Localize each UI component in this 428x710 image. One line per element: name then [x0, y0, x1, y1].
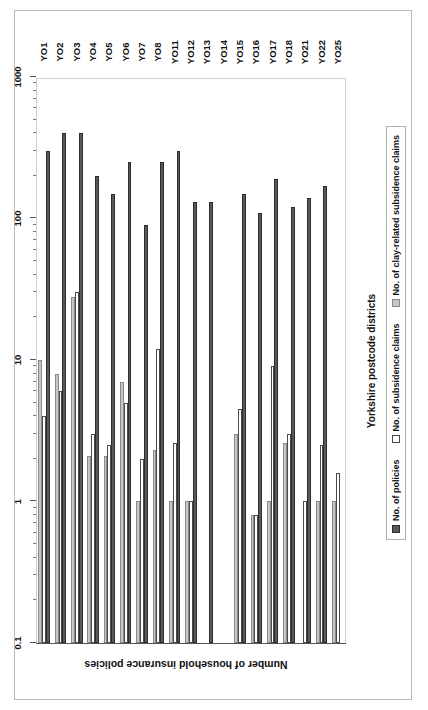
- bar-group: [232, 77, 248, 643]
- bar-policies-YO6[interactable]: [128, 162, 132, 643]
- category-label-YO14: YO14: [218, 35, 229, 69]
- value-axis-tick-label: 1: [14, 499, 23, 504]
- bar-group: [85, 77, 101, 643]
- bar-policies-YO18[interactable]: [291, 207, 295, 643]
- category-label-YO6: YO6: [120, 35, 131, 69]
- chart-rotation-wrapper: Number of household insurance policies Y…: [14, 10, 412, 700]
- bar-policies-YO2[interactable]: [62, 133, 66, 643]
- value-axis-tick-label: 100: [14, 211, 23, 227]
- bar-group: [264, 77, 280, 643]
- bar-policies-YO21[interactable]: [307, 198, 311, 643]
- category-label-YO11: YO11: [169, 35, 180, 69]
- value-axis-tick-label: 1000: [14, 66, 23, 87]
- bar-group: [330, 77, 346, 643]
- category-label-YO22: YO22: [316, 35, 327, 69]
- bar-group: [183, 77, 199, 643]
- category-label-YO25: YO25: [332, 35, 343, 69]
- category-label-YO17: YO17: [267, 35, 278, 69]
- category-label-YO21: YO21: [299, 35, 310, 69]
- category-label-YO16: YO16: [250, 35, 261, 69]
- category-label-YO2: YO2: [54, 35, 65, 69]
- bar-group: [297, 77, 313, 643]
- bar-subsidence-YO25[interactable]: [336, 473, 340, 643]
- rotated-chart-stage: Number of household insurance policies Y…: [14, 10, 412, 700]
- bar-group: [134, 77, 150, 643]
- bar-policies-YO17[interactable]: [274, 179, 278, 643]
- bar-policies-YO7[interactable]: [144, 225, 148, 643]
- legend-label-subsidence: No. of subsidence claims: [391, 323, 401, 431]
- category-axis-title: Yorkshire postcode districts: [366, 78, 377, 644]
- legend-label-clay: No. of clay-related subsidence claims: [391, 135, 401, 296]
- category-label-YO5: YO5: [103, 35, 114, 69]
- white-swatch-icon: [392, 435, 400, 443]
- bar-group: [36, 77, 52, 643]
- bar-policies-YO8[interactable]: [160, 162, 164, 643]
- plot-wrapper: Number of household insurance policies Y…: [14, 10, 412, 700]
- value-axis-tick-label: 0.1: [14, 636, 23, 649]
- bar-policies-YO11[interactable]: [177, 151, 181, 643]
- legend-item-clay[interactable]: No. of clay-related subsidence claims: [391, 135, 401, 308]
- value-axis-title: Number of household insurance policies: [31, 659, 341, 671]
- value-axis-tick-label: 10: [14, 355, 23, 366]
- category-label-YO13: YO13: [201, 35, 212, 69]
- legend-label-policies: No. of policies: [391, 459, 401, 521]
- chart-legend: No. of policies No. of subsidence claims…: [386, 126, 406, 540]
- bar-group: [199, 77, 215, 643]
- bar-group: [118, 77, 134, 643]
- bar-group: [281, 77, 297, 643]
- dark-gray-swatch-icon: [392, 525, 400, 533]
- legend-item-policies[interactable]: No. of policies: [391, 459, 401, 533]
- light-gray-swatch-icon: [392, 299, 400, 307]
- legend-item-subsidence[interactable]: No. of subsidence claims: [391, 323, 401, 443]
- category-label-YO3: YO3: [71, 35, 82, 69]
- bar-policies-YO4[interactable]: [95, 176, 99, 643]
- category-label-YO7: YO7: [136, 35, 147, 69]
- category-label-YO15: YO15: [234, 35, 245, 69]
- bar-policies-YO13[interactable]: [209, 202, 213, 643]
- figure-canvas: Number of household insurance policies Y…: [0, 0, 428, 710]
- bar-policies-YO5[interactable]: [111, 194, 115, 643]
- bar-policies-YO3[interactable]: [79, 133, 83, 643]
- bar-group: [248, 77, 264, 643]
- bar-group: [69, 77, 85, 643]
- bar-group: [101, 77, 117, 643]
- bar-policies-YO15[interactable]: [242, 194, 246, 643]
- bar-group: [52, 77, 68, 643]
- category-label-YO18: YO18: [283, 35, 294, 69]
- bar-policies-YO12[interactable]: [193, 202, 197, 643]
- plot-area: 10001001010.1YO1YO2YO3YO4YO5YO6YO7YO8YO1…: [36, 78, 346, 644]
- bar-policies-YO1[interactable]: [46, 151, 50, 643]
- category-label-YO1: YO1: [38, 35, 49, 69]
- bar-group: [313, 77, 329, 643]
- bar-policies-YO22[interactable]: [323, 186, 327, 643]
- category-label-YO8: YO8: [152, 35, 163, 69]
- category-label-YO4: YO4: [87, 35, 98, 69]
- bar-policies-YO16[interactable]: [258, 213, 262, 643]
- bar-group: [150, 77, 166, 643]
- bar-group: [215, 77, 231, 643]
- category-label-YO12: YO12: [185, 35, 196, 69]
- bar-group: [167, 77, 183, 643]
